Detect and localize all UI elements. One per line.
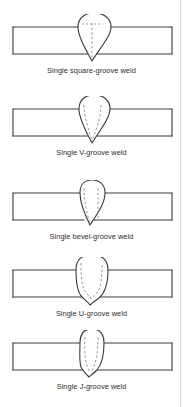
- figure-caption: Single square-groove weld: [0, 66, 183, 76]
- figure-v-groove: Single V-groove weld: [0, 96, 183, 158]
- figure-caption: Single V-groove weld: [0, 148, 183, 158]
- figure-v-groove-art: [0, 96, 183, 148]
- figure-square-groove: Single square-groove weld: [0, 14, 183, 76]
- figure-square-groove-art: [0, 14, 183, 66]
- figure-j-groove-art: [0, 330, 183, 382]
- figure-u-groove: Single U-groove weld: [0, 257, 183, 319]
- figure-u-groove-art: [0, 257, 183, 309]
- weld-bead-bevel: [80, 180, 105, 225]
- figure-caption: Single bevel-groove weld: [0, 232, 183, 242]
- figure-bevel-groove-art: [0, 180, 183, 232]
- figure-bevel-groove: Single bevel-groove weld: [0, 180, 183, 242]
- illustration-page: Single square-groove weld: [0, 0, 183, 407]
- figure-caption: Single J-groove weld: [0, 382, 183, 392]
- figure-caption: Single U-groove weld: [0, 309, 183, 319]
- figure-j-groove: Single J-groove weld: [0, 330, 183, 392]
